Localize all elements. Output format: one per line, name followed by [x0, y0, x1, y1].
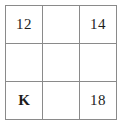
grid-cell-r1c2[interactable] — [43, 6, 80, 44]
grid-cell-r3c1[interactable]: K — [6, 82, 43, 120]
grid-cell-r3c3[interactable]: 18 — [80, 82, 117, 120]
grid-body: 12 14 — [6, 6, 117, 120]
grid-cell-value: 14 — [80, 17, 116, 32]
grid-cell-r1c1[interactable]: 12 — [6, 6, 43, 44]
grid-cell-r3c2[interactable] — [43, 82, 80, 120]
grid-cell-r1c3[interactable]: 14 — [80, 6, 117, 44]
puzzle-grid: 12 14 — [5, 5, 117, 120]
grid-figure: 12 14 — [5, 5, 115, 119]
grid-cell-r2c1[interactable] — [6, 44, 43, 82]
table-row — [6, 44, 117, 82]
table-row: 12 14 — [6, 6, 117, 44]
table-row: K 18 — [6, 82, 117, 120]
grid-cell-value: 18 — [80, 93, 116, 108]
grid-cell-value: 12 — [6, 17, 42, 32]
grid-cell-r2c3[interactable] — [80, 44, 117, 82]
grid-cell-r2c2[interactable] — [43, 44, 80, 82]
grid-cell-value: K — [6, 93, 42, 108]
